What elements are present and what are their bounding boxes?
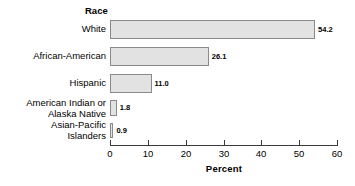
bar-value-label: 0.9: [116, 127, 126, 135]
axis-tick-label: 50: [287, 148, 311, 159]
category-label: American Indian orAlaska Native: [0, 98, 106, 119]
category-label: African-American: [0, 51, 106, 62]
bar-value-label: 26.1: [212, 53, 227, 61]
category-label-line: African-American: [0, 51, 106, 62]
category-label-line: American Indian or: [0, 98, 106, 109]
bar: [110, 100, 117, 116]
category-label-line: Hispanic: [0, 78, 106, 89]
bar-chart: Race WhiteAfrican-AmericanHispanicAmeric…: [0, 0, 355, 186]
category-label: Asian-PacificIslanders: [0, 120, 106, 141]
bar: [110, 20, 315, 39]
bar-value-label: 11.0: [155, 80, 169, 88]
axis-tick: [186, 140, 187, 145]
axis-tick: [148, 140, 149, 145]
category-label: Hispanic: [0, 78, 106, 89]
bar: [110, 123, 113, 138]
category-label: White: [0, 24, 106, 35]
category-label-line: Islanders: [0, 131, 106, 142]
category-label-line: Asian-Pacific: [0, 120, 106, 131]
bar-value-label: 1.8: [120, 104, 130, 112]
bar-row: 0.9: [110, 123, 337, 138]
bar-row: 11.0: [110, 74, 337, 93]
bar-row: 26.1: [110, 47, 337, 66]
axis-tick: [224, 140, 225, 145]
axis-tick: [337, 140, 338, 145]
bar: [110, 47, 209, 66]
bar-row: 54.2: [110, 20, 337, 39]
axis-tick: [261, 140, 262, 145]
axis-tick-label: 20: [174, 148, 198, 159]
axis-tick-label: 60: [325, 148, 349, 159]
plot-area: 54.226.111.01.80.9: [110, 18, 337, 145]
bar: [110, 74, 152, 93]
axis-tick-label: 40: [249, 148, 273, 159]
axis-tick: [299, 140, 300, 145]
category-label-column: WhiteAfrican-AmericanHispanicAmerican In…: [0, 18, 106, 145]
bar-value-label: 54.2: [318, 26, 333, 34]
axis-tick: [110, 140, 111, 145]
category-label-line: White: [0, 24, 106, 35]
value-axis-title: Percent: [110, 163, 338, 174]
category-axis-title: Race: [0, 5, 108, 16]
value-axis-line: [110, 145, 338, 146]
axis-tick-label: 0: [98, 148, 122, 159]
bar-row: 1.8: [110, 100, 337, 116]
category-label-line: Alaska Native: [0, 109, 106, 120]
axis-tick-label: 10: [136, 148, 160, 159]
axis-tick-label: 30: [212, 148, 236, 159]
